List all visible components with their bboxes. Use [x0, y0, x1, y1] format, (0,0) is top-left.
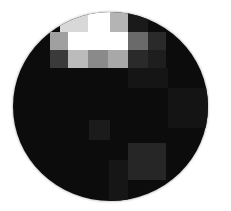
pixel-block: [128, 68, 168, 88]
pixelated-circle-image: [13, 12, 208, 201]
pixel-block: [148, 32, 166, 50]
pixel-block: [60, 12, 88, 32]
pixel-block: [128, 32, 148, 50]
pixel-block: [108, 50, 128, 68]
pixel-block: [89, 120, 110, 140]
pixel-block: [128, 143, 166, 180]
pixel-block: [110, 12, 128, 32]
pixel-block: [128, 50, 148, 68]
pixel-block: [109, 160, 128, 201]
pixel-block: [148, 50, 166, 68]
pixel-block: [88, 12, 110, 32]
pixel-block: [50, 32, 68, 50]
pixel-block: [68, 50, 88, 68]
pixel-block: [128, 12, 148, 32]
pixel-block: [50, 50, 68, 68]
pixel-block: [88, 50, 108, 68]
pixel-block: [68, 32, 128, 50]
pixel-block: [168, 88, 208, 128]
